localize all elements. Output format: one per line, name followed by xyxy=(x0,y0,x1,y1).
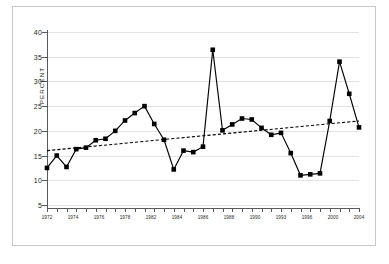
data-point-marker xyxy=(191,150,196,155)
data-point-marker xyxy=(318,171,323,176)
data-point-marker xyxy=(54,153,59,158)
data-point-marker xyxy=(132,111,137,116)
data-point-marker xyxy=(259,126,264,131)
data-point-marker xyxy=(288,151,293,156)
figure-caption xyxy=(12,252,376,261)
data-point-marker xyxy=(357,125,362,130)
data-point-marker xyxy=(181,148,186,153)
data-point-marker xyxy=(279,131,284,136)
data-point-marker xyxy=(249,117,254,122)
data-point-marker xyxy=(327,119,332,124)
data-point-marker xyxy=(220,128,225,133)
data-point-marker xyxy=(93,138,98,143)
data-point-marker xyxy=(152,122,157,127)
series-line xyxy=(47,50,359,176)
data-point-marker xyxy=(308,172,313,177)
data-point-marker xyxy=(64,165,69,170)
data-point-marker xyxy=(103,136,108,141)
data-point-marker xyxy=(240,116,245,121)
chart-plot xyxy=(0,0,389,264)
data-point-marker xyxy=(113,129,118,134)
data-point-marker xyxy=(162,137,167,142)
data-point-marker xyxy=(123,118,128,123)
data-point-marker xyxy=(45,166,50,171)
data-point-marker xyxy=(347,91,352,96)
data-point-marker xyxy=(298,173,303,178)
data-point-marker xyxy=(171,167,176,172)
data-point-marker xyxy=(230,122,235,127)
chart-figure: 510152025303540 197219741976197819821984… xyxy=(0,0,389,264)
data-point-marker xyxy=(337,59,342,64)
data-point-marker xyxy=(210,47,215,52)
data-point-marker xyxy=(74,147,79,152)
data-point-marker xyxy=(201,144,206,149)
data-point-marker xyxy=(84,145,89,150)
data-point-marker xyxy=(142,104,147,109)
data-markers xyxy=(45,47,362,177)
data-point-marker xyxy=(269,133,274,138)
